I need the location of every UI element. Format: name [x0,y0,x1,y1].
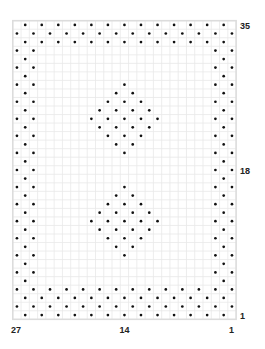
stitch-dot [131,143,134,146]
stitch-dot [231,237,234,240]
stitch-dot [140,220,143,223]
stitch-dot [32,220,35,223]
stitch-dot [107,24,110,27]
stitch-dot [131,126,134,129]
stitch-dot [222,211,225,214]
stitch-dot [131,32,134,35]
stitch-dot [98,305,101,308]
stitch-dot [222,92,225,95]
stitch-dot [156,297,159,300]
stitch-dot [198,32,201,35]
stitch-dot [32,237,35,240]
stitch-dot [123,24,126,27]
stitch-dot [24,297,27,300]
stitch-dot [206,24,209,27]
stitch-dot [214,237,217,240]
stitch-dot [214,186,217,189]
stitch-dot [115,211,118,214]
stitch-dot [57,297,60,300]
stitch-dot [140,297,143,300]
stitch-dot [24,126,27,129]
stitch-dot [16,271,19,274]
stitch-dot [214,152,217,155]
stitch-dot [16,254,19,257]
stitch-dot [16,49,19,52]
stitch-dot [32,254,35,257]
stitch-dot [148,32,151,35]
stitch-dot [107,135,110,138]
stitch-dot [32,305,35,308]
stitch-dot [222,41,225,44]
stitch-dot [222,24,225,27]
stitch-dot [173,297,176,300]
stitch-dot [40,24,43,27]
stitch-dot [115,288,118,291]
stitch-dot [206,41,209,44]
stitch-dot [140,314,143,317]
stitch-dot [123,41,126,44]
stitch-dot [98,211,101,214]
stitch-dot [214,100,217,103]
stitch-dot [24,143,27,146]
stitch-dot [16,135,19,138]
stitch-dot [24,314,27,317]
stitch-dot [156,314,159,317]
stitch-dot [131,305,134,308]
stitch-dot [231,220,234,223]
stitch-dot [231,203,234,206]
stitch-dot [16,32,19,35]
stitch-dot [214,135,217,138]
stitch-dot [49,288,52,291]
stitch-dot [115,143,118,146]
stitch-dot [214,49,217,52]
stitch-dot [16,117,19,120]
stitch-dot [189,314,192,317]
stitch-dot [214,169,217,172]
stitch-dot [173,41,176,44]
stitch-dot [107,314,110,317]
stitch-dot [24,280,27,283]
stitch-dot [32,169,35,172]
stitch-dot [164,305,167,308]
stitch-dot [16,100,19,103]
stitch-dot [231,169,234,172]
stitch-dot [123,314,126,317]
stitch-dot [90,117,93,120]
col-label-left: 27 [11,325,21,335]
stitch-dot [164,288,167,291]
stitch-dot [148,211,151,214]
stitch-dot [140,41,143,44]
stitch-dot [115,92,118,95]
stitch-dot [98,228,101,231]
stitch-dot [107,220,110,223]
stitch-dot [231,152,234,155]
stitch-dot [148,288,151,291]
stitch-dot [222,160,225,163]
stitch-dot [82,288,85,291]
stitch-dot [214,203,217,206]
stitch-dot [222,143,225,146]
stitch-dots [16,24,234,317]
stitch-dot [131,288,134,291]
stitch-dot [98,126,101,129]
stitch-dot [131,194,134,197]
stitch-dot [24,92,27,95]
stitch-dot [32,288,35,291]
stitch-dot [123,237,126,240]
stitch-dot [231,100,234,103]
stitch-dot [123,297,126,300]
stitch-dot [40,314,43,317]
stitch-dot [140,117,143,120]
stitch-dot [65,32,68,35]
stitch-dot [24,41,27,44]
stitch-dot [198,288,201,291]
stitch-dot [82,32,85,35]
stitch-dot [140,203,143,206]
stitch-dot [222,75,225,78]
stitch-dot [231,271,234,274]
stitch-dot [90,220,93,223]
stitch-dot [32,117,35,120]
stitch-dot [24,211,27,214]
stitch-dot [32,152,35,155]
stitch-dot [16,66,19,69]
